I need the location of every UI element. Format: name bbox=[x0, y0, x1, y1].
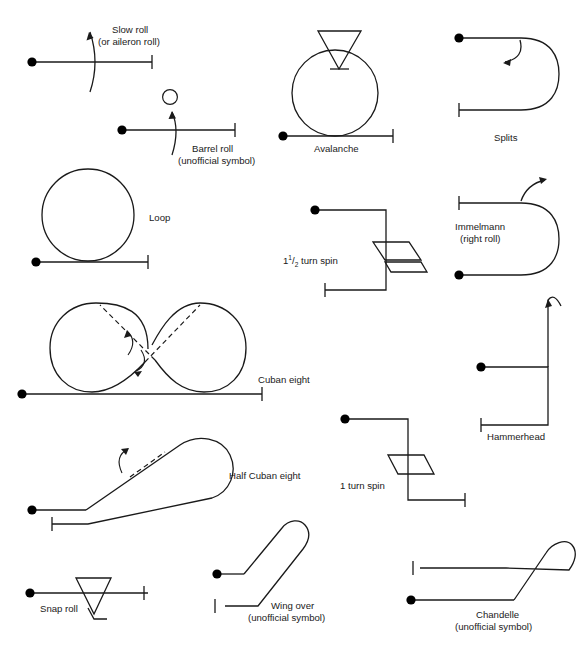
half-cuban-roll-dash-icon bbox=[130, 452, 165, 477]
start-dot-icon bbox=[278, 131, 287, 140]
symbol-cuban-eight: Cuban eight bbox=[17, 303, 310, 401]
cuban-eight-roll-arc-2-icon bbox=[136, 350, 145, 371]
symbol-barrel-roll: Barrel roll (unofficial symbol) bbox=[117, 90, 255, 166]
start-dot-icon bbox=[31, 257, 40, 266]
symbol-wing-over: Wing over (unofficial symbol) bbox=[212, 521, 325, 623]
symbol-slow-roll: Slow roll (or aileron roll) bbox=[27, 24, 159, 92]
start-dot-icon bbox=[117, 125, 126, 134]
chandelle-label-line2: (unofficial symbol) bbox=[455, 621, 532, 632]
diagram-canvas: Slow roll (or aileron roll) Barrel roll … bbox=[0, 0, 585, 656]
cuban-eight-arrowhead-2-icon bbox=[134, 371, 142, 377]
symbol-splits: Splits bbox=[454, 33, 559, 143]
start-dot-icon bbox=[27, 57, 36, 66]
snap-roll-tail-hook-icon bbox=[88, 608, 107, 619]
snap-roll-triangle-icon bbox=[76, 578, 111, 614]
symbol-one-turn-spin: 1 turn spin bbox=[340, 414, 465, 507]
symbol-immelmann: Immelmann (right roll) bbox=[454, 177, 559, 280]
splits-arrowhead-icon bbox=[503, 59, 511, 66]
spin-one-half-flight-path bbox=[315, 210, 386, 290]
cuban-eight-left-roll-dash-icon bbox=[145, 305, 200, 362]
chandelle-label-line1: Chandelle bbox=[476, 609, 519, 620]
spin-one-turn-label-line1: 1 turn spin bbox=[340, 480, 385, 491]
spin-half-turn-parallelogram-icon bbox=[385, 262, 427, 272]
barrel-roll-circle-icon bbox=[163, 90, 178, 105]
start-dot-icon bbox=[212, 569, 221, 578]
symbol-one-and-half-turn-spin: 11/2 turn spin bbox=[283, 205, 427, 297]
start-dot-icon bbox=[406, 595, 415, 604]
start-dot-icon bbox=[25, 588, 34, 597]
splits-label-line1: Splits bbox=[494, 132, 518, 143]
hammerhead-label-line1: Hammerhead bbox=[487, 431, 545, 442]
symbol-half-cuban-eight: Half Cuban eight bbox=[27, 438, 300, 531]
barrel-roll-arrowhead-icon bbox=[169, 111, 177, 119]
cuban-eight-right-loop-icon bbox=[152, 303, 246, 392]
hammerhead-flight-path bbox=[481, 367, 548, 425]
immelmann-label-line2: (right roll) bbox=[460, 233, 501, 244]
spin-turn-parallelogram-icon bbox=[373, 242, 421, 260]
cuban-eight-left-loop-icon bbox=[50, 303, 148, 392]
aerobatic-symbols-figure: Slow roll (or aileron roll) Barrel roll … bbox=[0, 0, 585, 656]
snap-roll-label-line1: Snap roll bbox=[40, 603, 78, 614]
symbol-loop: Loop bbox=[31, 169, 170, 269]
splits-roll-arc-icon bbox=[505, 40, 521, 62]
loop-circle-icon bbox=[42, 169, 134, 261]
avalanche-label-line1: Avalanche bbox=[314, 143, 359, 154]
hammerhead-arrowhead-icon bbox=[545, 299, 552, 308]
barrel-roll-label-line2: (unofficial symbol) bbox=[178, 155, 255, 166]
start-dot-icon bbox=[340, 414, 349, 423]
symbol-hammerhead: Hammerhead bbox=[476, 297, 561, 442]
start-dot-icon bbox=[310, 205, 319, 214]
half-cuban-eight-flight-path bbox=[52, 438, 233, 524]
half-cuban-eight-label-line1: Half Cuban eight bbox=[229, 470, 301, 481]
barrel-roll-label-line1: Barrel roll bbox=[192, 143, 233, 154]
symbol-snap-roll: Snap roll bbox=[25, 578, 148, 619]
start-dot-icon bbox=[17, 389, 26, 398]
start-dot-icon bbox=[454, 270, 463, 279]
start-dot-icon bbox=[27, 505, 36, 514]
wing-over-label-line2: (unofficial symbol) bbox=[248, 612, 325, 623]
wing-over-label-line1: Wing over bbox=[271, 600, 315, 611]
cuban-eight-label-line1: Cuban eight bbox=[258, 374, 310, 385]
splits-flight-path bbox=[459, 38, 559, 110]
slow-roll-label-line1: Slow roll bbox=[112, 24, 148, 35]
start-dot-icon bbox=[454, 33, 463, 42]
immelmann-label-line1: Immelmann bbox=[455, 221, 505, 232]
symbol-avalanche: Avalanche bbox=[278, 31, 393, 154]
loop-label-line1: Loop bbox=[149, 212, 170, 223]
chandelle-flight-path bbox=[420, 542, 575, 600]
spin-turn-parallelogram-icon bbox=[388, 455, 434, 474]
wing-over-flight-path bbox=[225, 521, 309, 606]
slow-roll-label-line2: (or aileron roll) bbox=[98, 36, 160, 47]
spin-one-half-label-line1: 11/2 turn spin bbox=[283, 254, 338, 268]
immelmann-arrowhead-icon bbox=[539, 177, 547, 184]
start-dot-icon bbox=[476, 362, 485, 371]
symbol-chandelle: Chandelle (unofficial symbol) bbox=[406, 542, 575, 632]
